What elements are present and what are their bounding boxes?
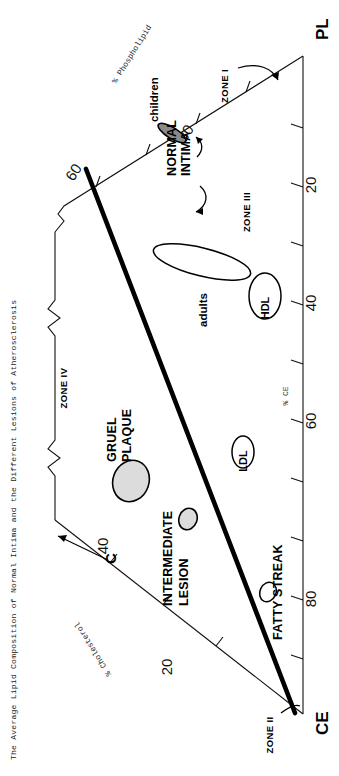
tick-ce-45 [291, 360, 303, 364]
axis-title-cholesterol: % Cholesterol [72, 620, 113, 678]
normal-intima-leader-children-head [196, 137, 203, 144]
zone-label-2: ZONE II [264, 716, 275, 753]
tick-label-ce-40: 40 [302, 295, 319, 312]
tick-label-ce-20: 20 [302, 177, 319, 194]
tick-label-ce-60: 60 [302, 413, 319, 430]
normal-intima-label-line2: INTIMA [179, 132, 193, 176]
region-adults-label: adults [197, 293, 209, 327]
tick-label-ce-80: 80 [302, 591, 319, 608]
region-hdl-label: HDL [259, 296, 271, 319]
axis-cholesterol-line [55, 520, 303, 714]
corner-label-pl: PL [313, 18, 332, 40]
region-fatty-streak-label: FATTY STREAK [271, 544, 285, 640]
tick-label-c-40: 40 [94, 538, 111, 555]
normal-intima-label-line1: NORMAL [165, 120, 179, 176]
tick-c-20 [216, 637, 223, 646]
region-gruel-plaque-label-line2: PLAQUE [120, 409, 134, 462]
zone-label-1: ZONE I [219, 69, 230, 103]
tick-label-c-20: 20 [158, 659, 175, 676]
region-adults-outline [150, 236, 254, 287]
zone-1-leader [238, 66, 278, 80]
figure-title: The Average Lipid Composition of Normal … [9, 300, 18, 760]
figure-page: The Average Lipid Composition of Normal … [0, 0, 339, 776]
region-intermediate-lesion-marker [176, 506, 200, 533]
zone-label-3: ZONE III [241, 192, 252, 232]
tick-label-pl-60: 60 [62, 161, 85, 184]
figure-title-text: The Average Lipid Composition of Normal … [9, 300, 18, 760]
tick-ce-70 [291, 537, 303, 541]
normal-intima-leader-adults [196, 186, 206, 212]
region-ldl-label: LDL [237, 450, 249, 472]
region-gruel-plaque-label-line1: GRUEL [105, 417, 119, 462]
zone-label-4: ZONE IV [58, 367, 69, 408]
data-regions: children adults NORMAL INTIMA HDL LDL FA… [105, 77, 285, 640]
tick-ce-30 [291, 242, 303, 246]
axis-title-phospholipid: % Phospholipid [110, 23, 153, 85]
c-corner-arrow-head [58, 535, 67, 542]
tick-ce-20 [291, 124, 303, 128]
tick-ce-90 [291, 655, 303, 659]
region-children-label: children [148, 77, 160, 122]
region-intermediate-lesion-label-line1: INTERMEDIATE [161, 511, 175, 606]
region-intermediate-lesion-label-line2: LESION [177, 558, 191, 606]
tick-ce-60 [291, 478, 303, 482]
ternary-diagram: The Average Lipid Composition of Normal … [0, 0, 339, 776]
corner-label-ce: CE [313, 711, 332, 735]
axis-title-ce: % CE [281, 386, 290, 405]
tick-pl-60 [96, 176, 100, 187]
